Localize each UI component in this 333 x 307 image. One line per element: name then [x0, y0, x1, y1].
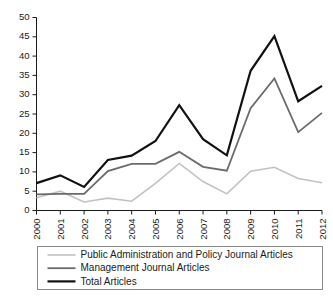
x-tick-label: 2002: [79, 219, 90, 240]
x-tick-label: 2000: [31, 219, 42, 240]
x-tick-label: 2007: [198, 219, 209, 240]
y-tick-label: 10: [19, 165, 30, 176]
x-tick-label: 2004: [126, 219, 137, 240]
data-series-group: [37, 36, 323, 202]
y-tick-label: 5: [24, 185, 29, 196]
y-tick-label: 30: [19, 88, 30, 99]
y-tick-label: 40: [19, 50, 30, 61]
x-tick-label: 2008: [221, 219, 232, 240]
y-tick-label: 45: [19, 30, 30, 41]
x-tick-label: 2006: [174, 219, 185, 240]
x-axis-ticks: 2000200120022003200420052006200720082009…: [31, 211, 328, 240]
legend-label-2: Total Articles: [81, 276, 137, 287]
x-tick-label: 2011: [293, 219, 304, 239]
x-tick-label: 2009: [245, 219, 256, 240]
x-tick-label: 2001: [55, 219, 66, 240]
x-tick-label: 2003: [102, 219, 113, 240]
y-tick-label: 35: [19, 69, 30, 80]
chart-canvas: 05101520253035404550 2000200120022003200…: [0, 0, 333, 307]
series-line-0: [37, 163, 323, 202]
y-tick-label: 20: [19, 127, 30, 138]
y-axis-ticks: 05101520253035404550: [19, 11, 37, 215]
y-tick-label: 25: [19, 108, 30, 119]
x-tick-label: 2005: [150, 219, 161, 240]
line-chart-figure: 05101520253035404550 2000200120022003200…: [0, 0, 333, 307]
y-tick-label: 0: [24, 204, 29, 215]
y-tick-label: 50: [19, 11, 30, 22]
chart-legend: Public Administration and Policy Journal…: [38, 247, 323, 290]
y-tick-label: 15: [19, 146, 30, 157]
x-tick-label: 2012: [317, 219, 328, 240]
x-tick-label: 2010: [269, 219, 280, 240]
legend-label-1: Management Journal Articles: [81, 262, 210, 273]
series-line-1: [37, 78, 323, 194]
legend-label-0: Public Administration and Policy Journal…: [81, 249, 293, 260]
